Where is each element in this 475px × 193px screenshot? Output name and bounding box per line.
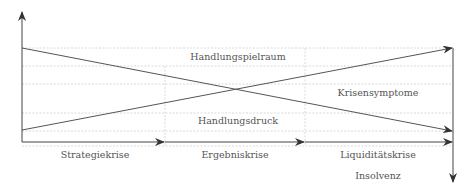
label-phase-liquiditaetskrise: Liquiditätskrise xyxy=(340,149,416,160)
crisis-phase-diagram: Handlungspielraum Krisensymptome Handlun… xyxy=(0,0,475,193)
phase-separators xyxy=(165,48,305,146)
label-handlungsdruck: Handlungsdruck xyxy=(198,115,278,126)
label-phase-ergebniskrise: Ergebniskrise xyxy=(201,149,269,160)
label-phase-strategiekrise: Strategiekrise xyxy=(61,149,130,160)
label-insolvenz: Insolvenz xyxy=(355,170,401,181)
label-handlungsspielraum: Handlungspielraum xyxy=(190,51,286,62)
label-krisensymptome: Krisensymptome xyxy=(338,87,419,98)
